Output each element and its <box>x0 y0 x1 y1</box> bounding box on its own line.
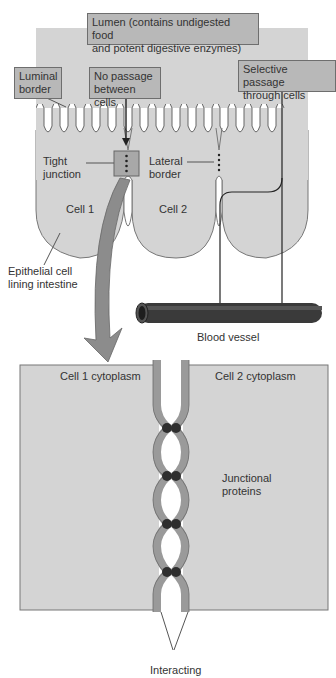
lateral-border-label: Lateral border <box>149 155 183 181</box>
cell-1-cytoplasm-label: Cell 1 cytoplasm <box>60 370 141 383</box>
lumen-label: Lumen (contains undigested food and pote… <box>87 13 259 45</box>
luminal-border-label: Luminal border <box>14 67 62 99</box>
blood-vessel-label: Blood vessel <box>197 331 259 344</box>
cell-1-label: Cell 1 <box>66 203 94 216</box>
junctional-proteins-label: Junctional proteins <box>222 472 272 498</box>
blood-vessel <box>136 303 322 323</box>
epithelial-cell-label: Epithelial cell lining intestine <box>8 265 78 291</box>
cell-2-cytoplasm-label: Cell 2 cytoplasm <box>215 370 296 383</box>
interacting-pointer <box>161 612 188 650</box>
interacting-label: Interacting <box>150 664 201 677</box>
no-passage-label: No passage between cells <box>89 67 161 99</box>
tight-junction-label: Tight junction <box>43 155 81 181</box>
cell-2-label: Cell 2 <box>159 203 187 216</box>
selective-passage-label: Selective passage through cells <box>238 60 336 92</box>
